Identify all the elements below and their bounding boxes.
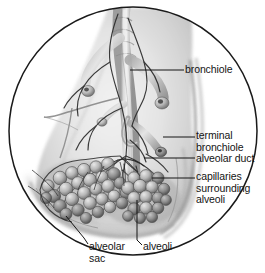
anatomical-figure: bronchiole terminal bronchiole alveolar … — [0, 0, 265, 273]
label-alveoli: alveoli — [143, 241, 172, 253]
label-alveolar-sac: alveolar sac — [89, 241, 125, 264]
label-bronchiole: bronchiole — [185, 64, 232, 76]
label-capillaries-surrounding-alveoli: capillaries surrounding alveoli — [196, 171, 250, 206]
label-alveolar-duct: alveolar duct — [196, 153, 254, 165]
label-terminal-bronchiole: terminal bronchiole — [196, 130, 243, 153]
circle-inset-content — [28, 6, 202, 245]
leader-alveoli-tick — [137, 240, 142, 245]
